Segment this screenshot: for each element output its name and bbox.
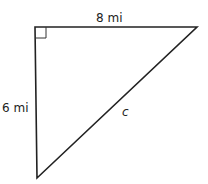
right-angle-marker bbox=[35, 27, 46, 38]
hypotenuse-label: c bbox=[122, 105, 129, 119]
left-side-label: 6 mi bbox=[2, 101, 28, 115]
triangle-shape bbox=[35, 27, 197, 178]
top-side-label: 8 mi bbox=[96, 11, 122, 25]
right-triangle-diagram: 8 mi 6 mi c bbox=[0, 0, 208, 184]
